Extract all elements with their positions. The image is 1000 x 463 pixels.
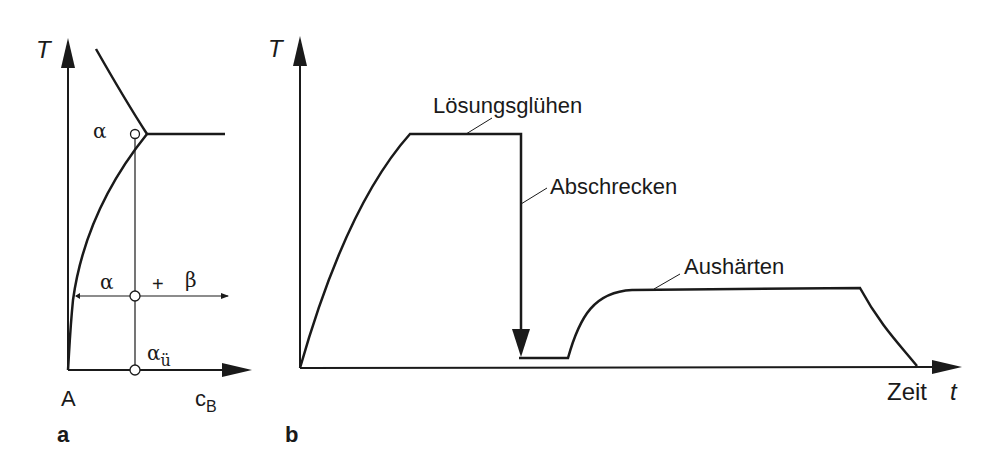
state-point-solution	[131, 130, 140, 139]
two-phase-beta-label: β	[185, 270, 197, 290]
heating-and-solution-annealing-curve	[300, 134, 521, 368]
figure-canvas: T α α + β αü A cB a T Lösungsglühen Absc…	[0, 0, 1000, 463]
two-phase-plus-label: +	[152, 274, 164, 294]
supersaturated-alpha-main: α	[147, 341, 161, 365]
solution-annealing-leader	[466, 118, 492, 134]
aging-leader	[654, 274, 680, 289]
two-phase-alpha-label: α	[100, 272, 114, 292]
panel-b-heat-treatment	[293, 36, 962, 374]
state-point-two-phase	[130, 291, 140, 301]
panel-a-phase-diagram	[61, 38, 252, 377]
solution-annealing-label: Lösungsglühen	[433, 95, 582, 117]
panel-b-y-axis-label: T	[268, 37, 283, 61]
panel-b-x-axis-label: Zeit	[887, 380, 927, 404]
aging-curve	[519, 288, 917, 366]
panel-b-time-axis-arrow-icon	[932, 360, 962, 374]
panel-a-origin-label: A	[61, 388, 76, 410]
panel-a-composition-axis-arrow-icon	[222, 363, 252, 377]
region-alpha-label: α	[93, 121, 107, 141]
panel-a-label: a	[57, 424, 69, 446]
tie-line-left-tick-icon	[75, 293, 80, 299]
state-point-supersaturated	[130, 365, 140, 375]
diagram-graphics	[0, 0, 1000, 463]
panel-b-temperature-axis-arrow-icon	[293, 36, 307, 66]
panel-a-x-axis-label-main: c	[195, 386, 206, 411]
panel-a-x-axis-label: cB	[195, 388, 217, 410]
panel-a-x-axis-label-sub: B	[206, 398, 217, 415]
panel-a-temperature-axis-arrow-icon	[61, 38, 75, 68]
panel-b-time-axis	[300, 367, 936, 368]
supersaturated-alpha-label: αü	[147, 343, 171, 363]
quench-arrow-icon	[512, 329, 530, 357]
panel-a-y-axis-label: T	[36, 38, 51, 62]
supersaturated-alpha-sub: ü	[161, 351, 171, 370]
aging-label: Aushärten	[684, 256, 784, 278]
quench-label: Abschrecken	[550, 176, 677, 198]
quench-leader	[521, 188, 547, 204]
panel-b-x-axis-variable: t	[950, 380, 957, 404]
panel-b-label: b	[285, 424, 298, 446]
